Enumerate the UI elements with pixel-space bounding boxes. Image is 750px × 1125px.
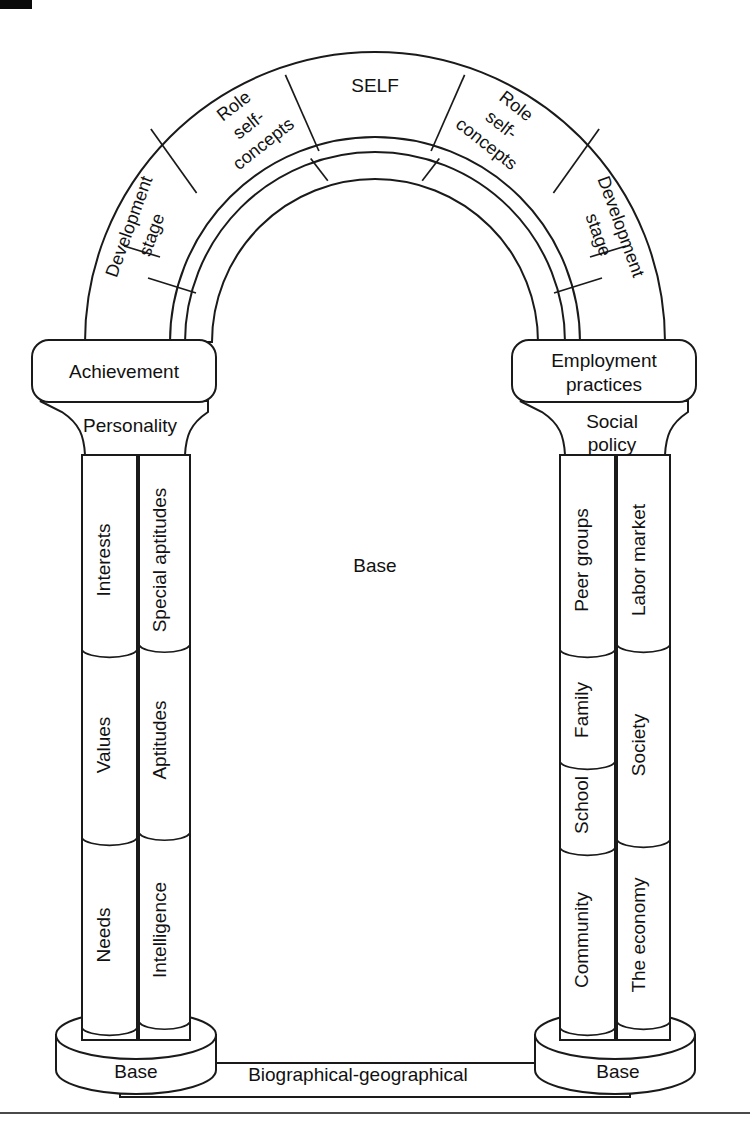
- left-base-label: Base: [114, 1061, 157, 1082]
- arch-group: SELF Role self- concepts Role self- conc…: [85, 52, 665, 342]
- right-column-capital: Employment practices: [512, 340, 696, 402]
- left-outer-shaft: Special aptitudes Aptitudes Intelligence: [139, 455, 190, 1040]
- right-inner-segment-1: Family: [571, 682, 592, 738]
- right-outer-segment-2: The economy: [628, 877, 649, 993]
- right-inner-segment-0: Peer groups: [571, 508, 592, 612]
- left-column-group: Base Interests Values Needs Special apti…: [32, 340, 216, 1094]
- left-capital-label: Achievement: [69, 361, 180, 382]
- right-outer-shaft: Labor market Society The economy: [617, 455, 670, 1040]
- right-column-group: Base Peer groups Family School Community: [512, 340, 696, 1094]
- left-outer-segment-2: Intelligence: [149, 882, 170, 978]
- figure-canvas: SELF Role self- concepts Role self- conc…: [0, 0, 750, 1125]
- right-inner-segment-3: Community: [571, 891, 592, 988]
- left-outer-segment-0: Special aptitudes: [149, 488, 170, 633]
- right-abacus-label-line1: Social: [586, 411, 638, 432]
- left-abacus-label: Personality: [83, 415, 177, 436]
- right-capital-label-line1: Employment: [551, 350, 657, 371]
- left-column-abacus: Personality: [40, 401, 208, 455]
- left-inner-segment-1: Values: [93, 717, 114, 774]
- right-outer-segment-0: Labor market: [628, 503, 649, 616]
- left-inner-shaft: Interests Values Needs: [82, 455, 137, 1040]
- left-inner-segment-0: Interests: [93, 524, 114, 597]
- page-footer-rule: [0, 1112, 750, 1114]
- right-inner-segment-2: School: [571, 776, 592, 834]
- ground-label: Biographical-geographical: [248, 1064, 468, 1085]
- right-base-label: Base: [596, 1061, 639, 1082]
- page-corner-marker: [0, 0, 32, 9]
- right-capital-label-line2: practices: [566, 374, 642, 395]
- right-outer-segment-1: Society: [628, 713, 649, 776]
- archway-diagram: SELF Role self- concepts Role self- conc…: [0, 0, 750, 1125]
- left-column-capital: Achievement: [32, 340, 216, 402]
- center-base-label: Base: [353, 555, 396, 576]
- right-abacus-label-line2: policy: [588, 434, 637, 455]
- arch-keystone-label: SELF: [351, 75, 399, 96]
- right-inner-shaft: Peer groups Family School Community: [560, 455, 615, 1040]
- left-inner-segment-2: Needs: [93, 908, 114, 963]
- left-outer-segment-1: Aptitudes: [149, 700, 170, 779]
- right-column-abacus: Social policy: [520, 401, 688, 455]
